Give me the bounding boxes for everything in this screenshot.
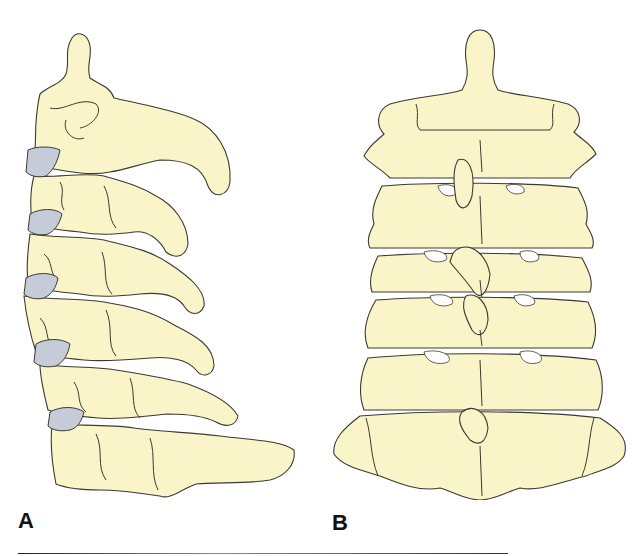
posterior-spine-illustration: [320, 0, 641, 500]
panel-label-b: B: [332, 510, 348, 536]
lateral-spine-illustration: [0, 0, 320, 500]
posterior-spine-drawing: [320, 0, 641, 500]
panel-label-a: A: [18, 508, 34, 534]
lateral-spine-drawing: [0, 0, 320, 500]
divider-rule: [18, 553, 508, 554]
